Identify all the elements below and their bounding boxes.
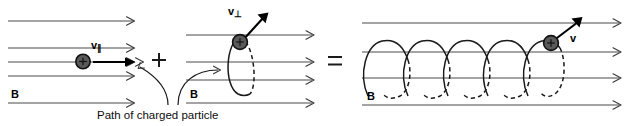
charged-particle-panel1 — [76, 54, 90, 68]
field-lines-panel2 — [186, 35, 312, 103]
field-label-b-panel2: B — [190, 89, 198, 100]
physics-figure-charged-particle-helix: B v∥ B v⊥ B v Path of charged particle — [0, 0, 633, 126]
panel-helical-motion — [362, 17, 621, 109]
velocity-label-parallel-subscript: ∥ — [97, 43, 102, 53]
velocity-label-resultant: v — [570, 33, 576, 45]
caption-path-of-charged-particle: Path of charged particle — [97, 110, 218, 122]
velocity-vector-perpendicular — [243, 13, 269, 41]
operator-equals — [328, 57, 342, 65]
field-line-arrowheads-panel2 — [306, 31, 314, 107]
helical-path — [364, 40, 565, 98]
velocity-label-perpendicular-subscript: ⊥ — [234, 9, 242, 19]
panel-perpendicular-motion — [186, 13, 314, 108]
figure-canvas — [0, 0, 633, 126]
field-label-b-panel1: B — [11, 89, 19, 100]
velocity-label-perpendicular: v⊥ — [228, 6, 242, 18]
caption-leader-lines — [138, 63, 220, 106]
operator-plus — [152, 53, 166, 67]
charged-particle-panel3 — [544, 36, 559, 51]
field-lines-panel3 — [362, 23, 619, 105]
field-label-b-panel3: B — [367, 91, 375, 102]
velocity-label-parallel: v∥ — [91, 40, 102, 52]
field-line-arrowheads-panel3 — [613, 19, 621, 109]
velocity-vector-resultant — [553, 17, 583, 41]
charged-particle-panel2 — [233, 35, 248, 50]
velocity-label-resultant-text: v — [570, 32, 576, 44]
panel-parallel-motion — [8, 17, 144, 107]
